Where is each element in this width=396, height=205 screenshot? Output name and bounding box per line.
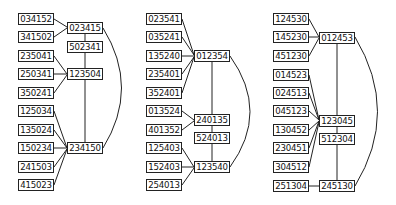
hub-node: 234150 [67,142,103,154]
hub-node: 123540 [194,161,230,173]
node: 124530 [273,13,309,25]
node: 235041 [18,50,54,62]
node: 130452 [273,124,309,136]
node: 451230 [273,50,309,62]
node: 045123 [273,105,309,117]
node: 145230 [273,31,309,43]
node: 150234 [18,142,54,154]
hub-node: 502341 [67,41,103,53]
hub-node: 023415 [67,22,103,34]
node: 024513 [273,87,309,99]
node: 251304 [273,180,309,192]
node: 415023 [18,179,54,191]
hub-node: 240135 [194,114,230,126]
node: 014523 [273,69,309,81]
hub-node: 524013 [194,132,230,144]
hub-node: 245130 [319,180,355,192]
node: 254013 [146,179,182,191]
edges [0,0,396,205]
node: 241503 [18,161,54,173]
node: 152403 [146,161,182,173]
node: 352401 [146,87,182,99]
node: 125034 [18,105,54,117]
node: 023541 [146,13,182,25]
node: 125403 [146,142,182,154]
node: 401352 [146,124,182,136]
permutation-graph-diagram: 034152 341502 235041 250341 350241 12503… [0,0,396,205]
node: 304512 [273,161,309,173]
node: 341502 [18,31,54,43]
node: 235401 [146,68,182,80]
node: 034152 [18,13,54,25]
node: 135024 [18,124,54,136]
node: 250341 [18,68,54,80]
node: 135240 [146,50,182,62]
hub-node: 012453 [319,32,355,44]
hub-node: 123504 [67,68,103,80]
node: 035241 [146,31,182,43]
node: 350241 [18,87,54,99]
hub-node: 123045 [319,115,355,127]
node: 230451 [273,142,309,154]
hub-node: 012354 [194,50,230,62]
hub-node: 512304 [319,133,355,145]
node: 013524 [146,105,182,117]
